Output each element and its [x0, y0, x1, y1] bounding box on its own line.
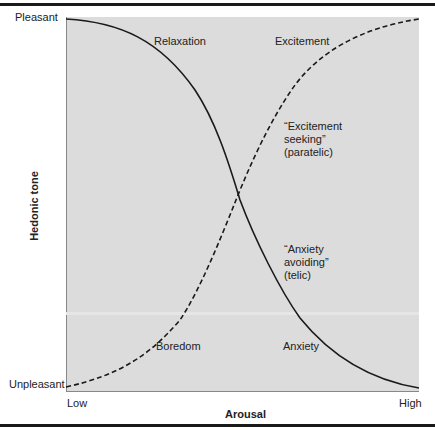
x-tick-high: High — [399, 397, 422, 410]
annotation-boredom: Boredom — [156, 340, 201, 353]
annotation-excitement: Excitement — [275, 35, 329, 48]
annotation-anxiety-avoiding: “Anxiety avoiding” (telic) — [284, 243, 329, 282]
annotation-anxiety: Anxiety — [283, 340, 319, 353]
x-axis-title: Arousal — [225, 408, 266, 420]
annotation-excitement-seeking: “Excitement seeking” (paratelic) — [284, 120, 342, 159]
paratelic-curve — [66, 19, 419, 387]
y-tick-pleasant: Pleasant — [15, 11, 58, 24]
x-tick-low: Low — [67, 397, 87, 410]
y-tick-unpleasant: Unpleasant — [9, 378, 65, 391]
curves-layer — [0, 0, 435, 430]
annotation-relaxation: Relaxation — [154, 35, 206, 48]
telic-curve — [66, 19, 419, 388]
y-axis-title: Hedonic tone — [28, 166, 40, 246]
